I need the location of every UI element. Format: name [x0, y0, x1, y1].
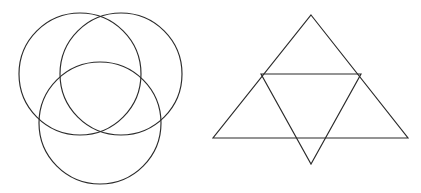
- two-overlapping-triangles-group: [213, 15, 408, 164]
- bottom-center-circle: [39, 62, 161, 184]
- figure-canvas: [0, 0, 421, 193]
- geometry-figure-svg: [0, 0, 421, 193]
- upward-triangle: [213, 15, 408, 138]
- downward-triangle: [261, 74, 361, 164]
- top-left-circle: [19, 13, 141, 135]
- three-overlapping-circles-group: [19, 13, 182, 184]
- top-right-circle: [60, 13, 182, 135]
